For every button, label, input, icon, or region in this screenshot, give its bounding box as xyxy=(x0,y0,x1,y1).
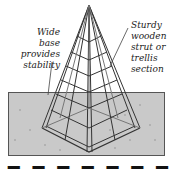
trellis-diagram: Wide base provides stability Sturdy wood… xyxy=(0,0,169,169)
label-line: stability xyxy=(18,60,60,71)
label-line: base xyxy=(18,38,60,49)
wide-base-label: Wide base provides stability xyxy=(18,27,60,71)
label-line: Wide xyxy=(18,27,60,38)
cropped-caption: ▬ ▬ ▬ ▬ ▬ ▬ ▬ ▬ xyxy=(6,158,169,169)
label-line: section xyxy=(131,64,169,75)
label-line: wooden xyxy=(131,31,169,42)
label-line: trellis xyxy=(131,53,169,64)
sturdy-strut-label: Sturdy wooden strut or trellis section xyxy=(131,20,169,75)
label-line: strut or xyxy=(131,42,169,53)
label-line: provides xyxy=(18,49,60,60)
label-line: Sturdy xyxy=(131,20,169,31)
